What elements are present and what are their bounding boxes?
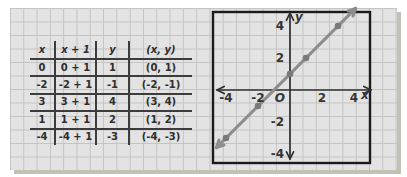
table-header-row: x x + 1 y (x, y): [30, 41, 192, 59]
cell-rule: 1 + 1: [55, 111, 96, 128]
cell-y: 2: [96, 111, 129, 128]
table-row: -2 -2 + 1 -1 (-2, -1): [30, 76, 192, 93]
cell-y: 1: [96, 59, 129, 76]
cell-pair: (0, 1): [129, 59, 192, 76]
function-table: x x + 1 y (x, y) 0 0 + 1 1 (0, 1) -2 -2 …: [30, 41, 192, 145]
table-row: 0 0 + 1 1 (0, 1): [30, 59, 192, 76]
cell-rule: -2 + 1: [55, 76, 96, 93]
cell-pair: (1, 2): [129, 111, 192, 128]
col-header-x: x: [30, 41, 55, 59]
table-row: 1 1 + 1 2 (1, 2): [30, 111, 192, 128]
table-row: 3 3 + 1 4 (3, 4): [30, 94, 192, 111]
col-header-y: y: [96, 41, 129, 59]
cell-x: 1: [30, 111, 55, 128]
col-header-rule: x + 1: [55, 41, 96, 59]
cell-x: -2: [30, 76, 55, 93]
cell-pair: (3, 4): [129, 94, 192, 111]
cell-x: 3: [30, 94, 55, 111]
cell-pair: (-4, -3): [129, 129, 192, 145]
cell-pair: (-2, -1): [129, 76, 192, 93]
cell-rule: -4 + 1: [55, 129, 96, 145]
cell-y: -1: [96, 76, 129, 93]
cell-y: 4: [96, 94, 129, 111]
cell-x: -4: [30, 129, 55, 145]
table-row: -4 -4 + 1 -3 (-4, -3): [30, 129, 192, 145]
worksheet: x x + 1 y (x, y) 0 0 + 1 1 (0, 1) -2 -2 …: [0, 0, 407, 177]
cell-x: 0: [30, 59, 55, 76]
cell-rule: 0 + 1: [55, 59, 96, 76]
cell-y: -3: [96, 129, 129, 145]
cell-rule: 3 + 1: [55, 94, 96, 111]
col-header-pair: (x, y): [129, 41, 192, 59]
